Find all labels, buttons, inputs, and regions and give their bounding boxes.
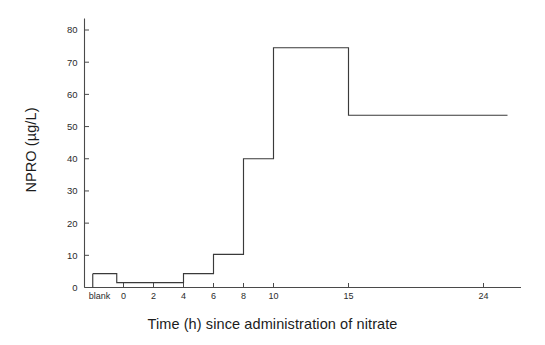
chart-axes [85,19,522,288]
x-tick-label: 6 [211,291,216,301]
npro-step-line [93,48,508,283]
y-axis-ticks [85,30,90,288]
x-axis-title: Time (h) since administration of nitrate [0,316,545,332]
y-tick-label: 0 [72,282,77,293]
y-tick-label: 20 [67,218,78,229]
data-series-group [93,48,508,288]
y-tick-label: 30 [67,185,78,196]
y-tick-label: 50 [67,121,78,132]
y-tick-label: 10 [67,250,78,261]
chart-figure: 01020304050607080 blank02468101524 NPRO … [0,0,545,345]
x-tick-label: 8 [241,291,246,301]
y-tick-label: 60 [67,89,78,100]
y-axis-title: NPRO (µg/L) [23,107,39,192]
x-tick-label: blank [89,291,111,301]
x-tick-label: 15 [343,291,353,301]
x-tick-label: 4 [181,291,186,301]
x-tick-label: 2 [151,291,156,301]
y-axis-tick-labels: 01020304050607080 [67,24,78,293]
chart-plot-area: 01020304050607080 blank02468101524 [0,0,545,345]
x-axis-ticks [124,283,484,288]
y-tick-label: 70 [67,57,78,68]
x-tick-label: 0 [121,291,126,301]
x-tick-label: 10 [268,291,278,301]
y-tick-label: 80 [67,24,78,35]
y-axis-title-wrap: NPRO (µg/L) [14,0,48,300]
x-tick-label: 24 [478,291,488,301]
y-tick-label: 40 [67,153,78,164]
x-axis-tick-labels: blank02468101524 [89,291,489,301]
